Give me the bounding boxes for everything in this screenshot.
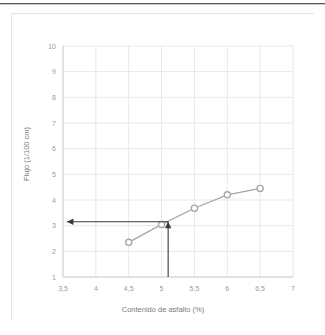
series-marker[interactable] [191,205,197,211]
x-tick-label: 4 [94,285,98,292]
y-axis-title: Flujo (1/100 cm) [22,126,31,181]
line-chart[interactable]: 12345678910 3,544,555,566,57 Contenido d… [12,14,315,322]
y-tick-label: 2 [52,248,56,255]
x-tick-label: 5,5 [190,285,200,292]
y-tick-label: 8 [52,94,56,101]
y-tick-label: 1 [52,274,56,281]
y-tick-label: 4 [52,197,56,204]
y-tick-label: 7 [52,120,56,127]
series-marker[interactable] [126,239,132,245]
x-tick-label: 4,5 [124,285,134,292]
y-tick-label: 9 [52,68,56,75]
plot-background [12,14,315,322]
x-tick-label: 6,5 [255,285,265,292]
x-tick-label: 7 [291,285,295,292]
x-tick-label: 3,5 [58,285,68,292]
series-marker[interactable] [257,185,263,191]
x-axis-title: Contenido de asfalto (%) [122,305,205,314]
y-tick-label: 10 [48,43,56,50]
series-marker[interactable] [224,192,230,198]
y-tick-label: 6 [52,145,56,152]
x-tick-label: 5 [160,285,164,292]
chart-card: 12345678910 3,544,555,566,57 Contenido d… [11,13,314,321]
y-tick-label: 3 [52,222,56,229]
chart-plot-wrapper: 12345678910 3,544,555,566,57 Contenido d… [12,14,315,322]
x-tick-label: 6 [225,285,229,292]
page-top-rule-shadow [0,4,325,5]
y-tick-label: 5 [52,171,56,178]
